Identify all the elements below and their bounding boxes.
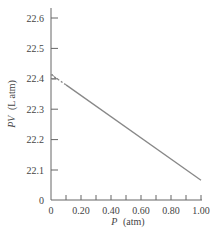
y-tick-label: 22.4 — [27, 73, 45, 84]
x-tick-label: 0.80 — [162, 205, 180, 216]
y-ticks: 22.622.522.422.322.222.10 — [27, 13, 59, 206]
data-series — [51, 75, 201, 181]
x-axis-label: P (atm) — [110, 216, 144, 228]
y-tick-label: 0 — [39, 195, 44, 206]
y-axis-label: PV (L atm) — [6, 80, 18, 129]
y-tick-label: 22.2 — [27, 134, 45, 145]
y-tick-label: 22.5 — [27, 43, 45, 54]
x-tick-label: 1.00 — [192, 205, 210, 216]
series-measured — [66, 85, 201, 180]
x-tick-label: 0.60 — [132, 205, 150, 216]
y-tick-label: 22.1 — [27, 165, 45, 176]
x-tick-label: 0 — [49, 205, 54, 216]
x-ticks: 00.200.400.600.801.00 — [49, 195, 210, 216]
intercept-marker — [52, 74, 56, 79]
x-tick-label: 0.20 — [72, 205, 90, 216]
chart-root: 22.622.522.422.322.222.10 00.200.400.600… — [0, 0, 212, 235]
y-tick-label: 22.3 — [27, 104, 45, 115]
y-tick-label: 22.6 — [27, 13, 45, 24]
x-tick-label: 0.40 — [102, 205, 120, 216]
